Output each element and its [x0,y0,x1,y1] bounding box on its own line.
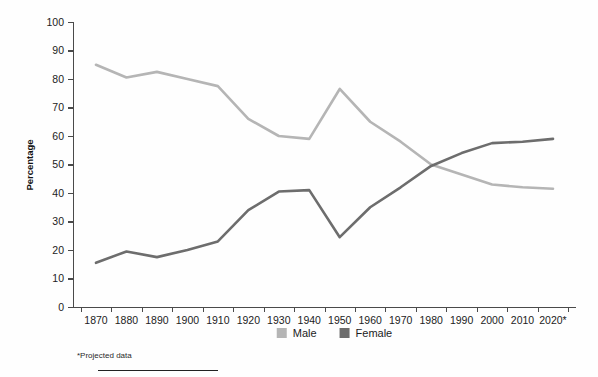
x-axis-tick-label: 1900 [176,314,200,326]
x-axis-tick-label: 1870 [84,314,108,326]
footnote: *Projected data [77,351,132,360]
x-axis-tick-label: 1990 [450,314,474,326]
x-axis-tick-label: 1890 [145,314,169,326]
y-axis-tick-label: 100 [46,16,64,28]
legend-label-male: Male [293,327,317,339]
y-axis-tick-label: 70 [52,101,64,113]
x-axis-tick-label: 1940 [298,314,322,326]
x-axis-tick-label: 1920 [237,314,261,326]
y-axis-tick-label: 90 [52,44,64,56]
x-axis-tick-label: 1950 [328,314,352,326]
x-axis-tick-label: 1880 [115,314,139,326]
x-axis-tick-label: 2010 [511,314,535,326]
y-axis-tick-label: 80 [52,73,64,85]
series-line-male [96,65,553,189]
y-axis-tick-label: 20 [52,244,64,256]
y-axis-tick-label: 30 [52,215,64,227]
y-axis-tick-label: 0 [58,301,64,313]
legend-swatch-male [277,328,287,338]
line-chart: 0102030405060708090100 18701880189019001… [0,0,598,377]
y-axis-tick-label: 40 [52,187,64,199]
x-axis-tick-label: 2000 [480,314,504,326]
y-axis-tick-marks [68,23,74,308]
y-axis-tick-labels: 0102030405060708090100 [46,16,64,313]
series-line-female [96,139,553,263]
y-axis-tick-label: 10 [52,272,64,284]
x-axis-tick-label: 1970 [389,314,413,326]
data-series-group [96,65,553,263]
x-axis-tick-label: 1980 [419,314,443,326]
x-axis-tick-label: 1930 [267,314,291,326]
chart-legend: MaleFemale [277,327,392,339]
legend-label-female: Female [356,327,393,339]
x-axis-tick-label: 1960 [359,314,383,326]
y-axis-tick-label: 50 [52,158,64,170]
y-axis-tick-label: 60 [52,130,64,142]
chart-container: 0102030405060708090100 18701880189019001… [0,0,598,377]
x-axis-tick-label: 2020* [539,314,566,326]
legend-swatch-female [340,328,350,338]
x-axis-tick-labels: 1870188018901900191019201930194019501960… [84,314,566,326]
x-axis-tick-label: 1910 [206,314,230,326]
y-axis-title: Percentage [24,139,35,190]
